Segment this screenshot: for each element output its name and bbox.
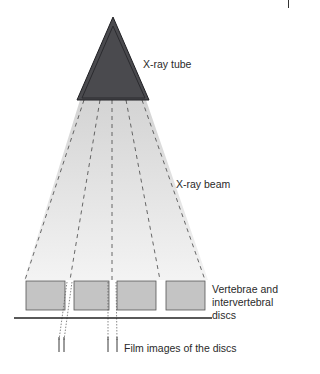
label-vertebrae: Vertebrae and intervertebral discs [212, 283, 292, 322]
label-film-images: Film images of the discs [124, 342, 237, 355]
film-images [59, 337, 117, 352]
xray-tube [77, 17, 149, 100]
label-xray-beam: X-ray beam [176, 178, 230, 191]
vertebra-4 [166, 281, 205, 310]
vertebra-3 [117, 281, 156, 310]
vertebra-2 [74, 281, 109, 310]
label-xray-tube: X-ray tube [143, 58, 191, 71]
vertebra-1 [26, 281, 65, 310]
vertebrae [26, 281, 205, 310]
